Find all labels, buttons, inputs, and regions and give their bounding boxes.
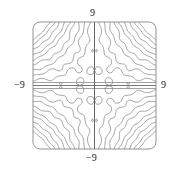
y-max-label: 9 — [90, 8, 95, 18]
x-min-label: −9 — [14, 80, 25, 90]
contour-plot — [0, 0, 174, 177]
y-min-label: −9 — [86, 153, 97, 163]
x-max-label: 9 — [161, 80, 166, 90]
